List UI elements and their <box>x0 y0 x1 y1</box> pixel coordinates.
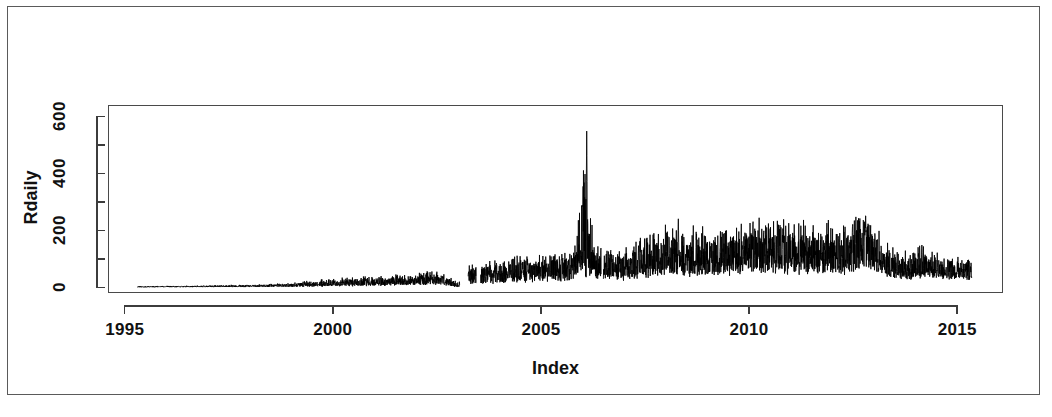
x-tick-label-2015: 2015 <box>912 320 1002 340</box>
y-tick-label-600: 600 <box>50 88 70 144</box>
x-axis-title: Index <box>456 358 656 379</box>
y-minor-tick-300 <box>96 201 105 203</box>
series-path-segment <box>468 265 476 284</box>
y-tick-400 <box>96 173 105 175</box>
x-tick-label-2000: 2000 <box>288 320 378 340</box>
x-tick-2000 <box>332 305 334 314</box>
x-tick-label-1995: 1995 <box>80 320 170 340</box>
screenshot-root: Rdaily 0200400600 19952000200520102015 I… <box>0 0 1052 417</box>
series-path-segment <box>603 216 971 281</box>
x-tick-2015 <box>956 305 958 314</box>
x-tick-2010 <box>748 305 750 314</box>
y-minor-tick-100 <box>96 258 105 260</box>
y-tick-label-400: 400 <box>50 145 70 201</box>
y-tick-label-0: 0 <box>50 259 70 315</box>
series-rdaily <box>108 105 1003 293</box>
x-tick-label-2005: 2005 <box>496 320 586 340</box>
x-tick-label-2010: 2010 <box>704 320 794 340</box>
y-tick-label-200: 200 <box>50 202 70 258</box>
y-minor-tick-500 <box>96 144 105 146</box>
y-tick-200 <box>96 230 105 232</box>
y-axis-title: Rdaily <box>21 163 42 233</box>
x-tick-1995 <box>124 305 126 314</box>
series-path-segment <box>137 271 459 287</box>
x-tick-2005 <box>540 305 542 314</box>
y-tick-0 <box>96 287 105 289</box>
y-tick-600 <box>96 116 105 118</box>
series-path-segment <box>481 131 601 284</box>
plot-area <box>108 105 1003 293</box>
